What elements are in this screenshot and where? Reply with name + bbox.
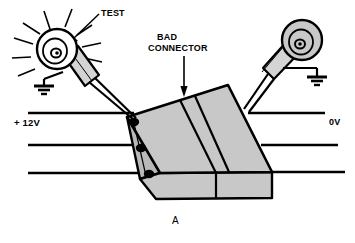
ray-7 — [77, 25, 92, 35]
lamp-filament-core-left — [55, 51, 59, 55]
label-bad-connector-line1: BAD — [157, 32, 177, 42]
figure-caption: A — [172, 215, 179, 226]
ground-symbol-right — [307, 77, 327, 85]
ground-wire-left-vert — [44, 72, 63, 79]
ground-symbol-left — [34, 86, 54, 94]
test-leader-line — [73, 14, 99, 39]
label-test: TEST — [101, 8, 125, 18]
label-supply-ground: 0V — [329, 117, 340, 127]
callout-arrow-head — [180, 86, 187, 97]
ground-lead-right — [283, 68, 327, 85]
test-lamp-probe-right — [244, 20, 327, 112]
ray-3 — [14, 38, 33, 44]
diagram-canvas — [0, 0, 355, 243]
ray-5 — [18, 69, 35, 76]
bad-connector-callout-arrow — [180, 56, 187, 97]
ray-2 — [23, 23, 40, 34]
connector-front-face — [140, 172, 272, 199]
lamp-bulb-left — [37, 29, 77, 69]
ray-1 — [44, 11, 50, 29]
test-lamp-probe-left — [12, 9, 136, 120]
label-supply-positive: + 12V — [14, 118, 40, 129]
technical-diagram-figure: TEST BAD CONNECTOR + 12V 0V A — [0, 0, 355, 243]
connector-block — [127, 85, 272, 199]
lamp-filament-core-right — [298, 42, 302, 46]
ray-4 — [12, 57, 31, 58]
ray-6 — [65, 9, 72, 27]
ground-lead-left — [34, 72, 63, 94]
pin-2-mid — [136, 144, 146, 152]
probe-tip-needle-left-a — [89, 82, 134, 120]
lamp-bulb-right — [282, 20, 322, 60]
ray-8 — [82, 43, 101, 47]
label-bad-connector-line2: CONNECTOR — [148, 43, 208, 53]
pin-3-low — [144, 170, 154, 178]
